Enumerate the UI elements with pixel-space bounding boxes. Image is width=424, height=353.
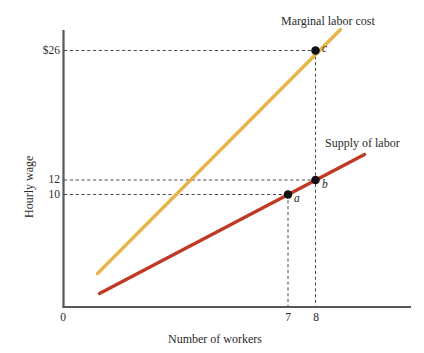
y-axis-title: Hourly wage: [22, 156, 37, 218]
data-point-a: [284, 190, 293, 199]
point-label-c: c: [322, 42, 327, 54]
x-axis-title: Number of workers: [150, 332, 280, 347]
chart-plot-area: [0, 0, 424, 353]
point-label-a: a: [294, 192, 300, 204]
economics-chart-figure: $26 12 10 7 8 0 Hourly wage Number of wo…: [0, 0, 424, 353]
x-tick-label-8: 8: [302, 311, 330, 323]
supply-of-labor-curve: [100, 155, 365, 294]
data-point-b: [311, 176, 320, 185]
y-tick-label-26: $26: [18, 44, 60, 56]
x-tick-label-7: 7: [274, 311, 302, 323]
origin-label: 0: [50, 311, 76, 323]
supply-of-labor-label: Supply of labor: [325, 136, 400, 151]
marginal-labor-cost-curve: [98, 30, 341, 274]
marginal-labor-cost-label: Marginal labor cost: [281, 14, 375, 29]
data-point-c: [311, 46, 320, 55]
point-label-b: b: [322, 178, 328, 190]
